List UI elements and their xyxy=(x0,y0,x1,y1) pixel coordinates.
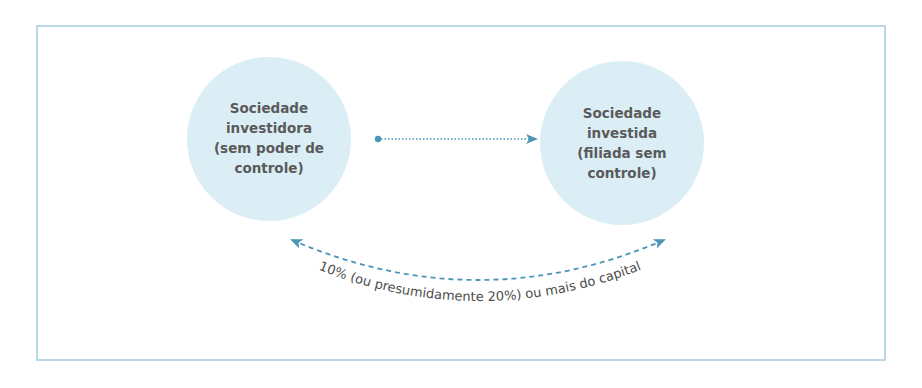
node-label-investida: Sociedade investida (filiada sem control… xyxy=(552,103,692,183)
node-label-line: Sociedade xyxy=(199,98,339,118)
diagram-canvas: 10% (ou presumidamente 20%) ou mais do c… xyxy=(0,0,922,388)
node-label-line: Sociedade xyxy=(552,103,692,123)
node-label-investidora: Sociedade investidora (sem poder de cont… xyxy=(199,98,339,178)
arrow-start-dot-icon xyxy=(375,136,381,142)
dotted-arrow xyxy=(375,136,536,142)
node-label-line: (sem poder de xyxy=(199,138,339,158)
node-label-line: investidora xyxy=(199,118,339,138)
node-label-line: (filiada sem xyxy=(552,143,692,163)
node-label-line: controle) xyxy=(552,163,692,183)
node-label-line: investida xyxy=(552,123,692,143)
node-label-line: controle) xyxy=(199,158,339,178)
